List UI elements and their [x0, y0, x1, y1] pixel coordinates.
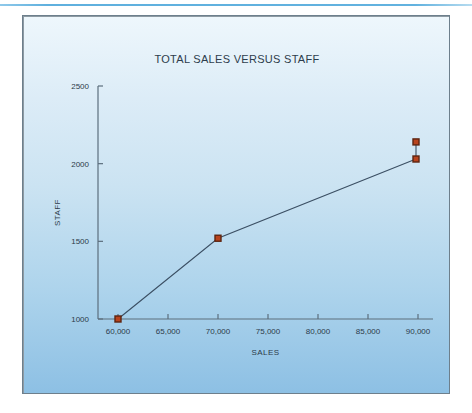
y-tick-label: 1500: [71, 237, 89, 246]
data-point-markers: [115, 139, 419, 322]
x-axis-title: SALES: [252, 348, 280, 357]
y-tick-label: 1000: [71, 315, 89, 324]
x-tick-label: 75,000: [256, 327, 281, 336]
chart-panel: TOTAL SALES VERSUS STAFF 100015002000250…: [22, 15, 450, 394]
x-axis-ticks: 60,00065,00070,00075,00080,00085,00090,0…: [106, 314, 431, 336]
data-point-marker: [215, 235, 221, 241]
x-tick-label: 90,000: [406, 327, 431, 336]
x-tick-label: 60,000: [106, 327, 131, 336]
series-line: [118, 159, 416, 319]
x-tick-label: 65,000: [156, 327, 181, 336]
data-series-lines: [118, 142, 416, 319]
chart-plot-area: 1000150020002500 60,00065,00070,00075,00…: [23, 16, 451, 395]
x-tick-label: 70,000: [206, 327, 231, 336]
x-tick-label: 85,000: [356, 327, 381, 336]
top-divider-rule: [0, 4, 472, 6]
data-point-marker: [413, 156, 419, 162]
y-tick-label: 2000: [71, 160, 89, 169]
y-axis-title: STAFF: [53, 199, 62, 226]
x-tick-label: 80,000: [306, 327, 331, 336]
data-point-marker: [115, 316, 121, 322]
data-point-marker: [413, 139, 419, 145]
y-tick-label: 2500: [71, 82, 89, 91]
